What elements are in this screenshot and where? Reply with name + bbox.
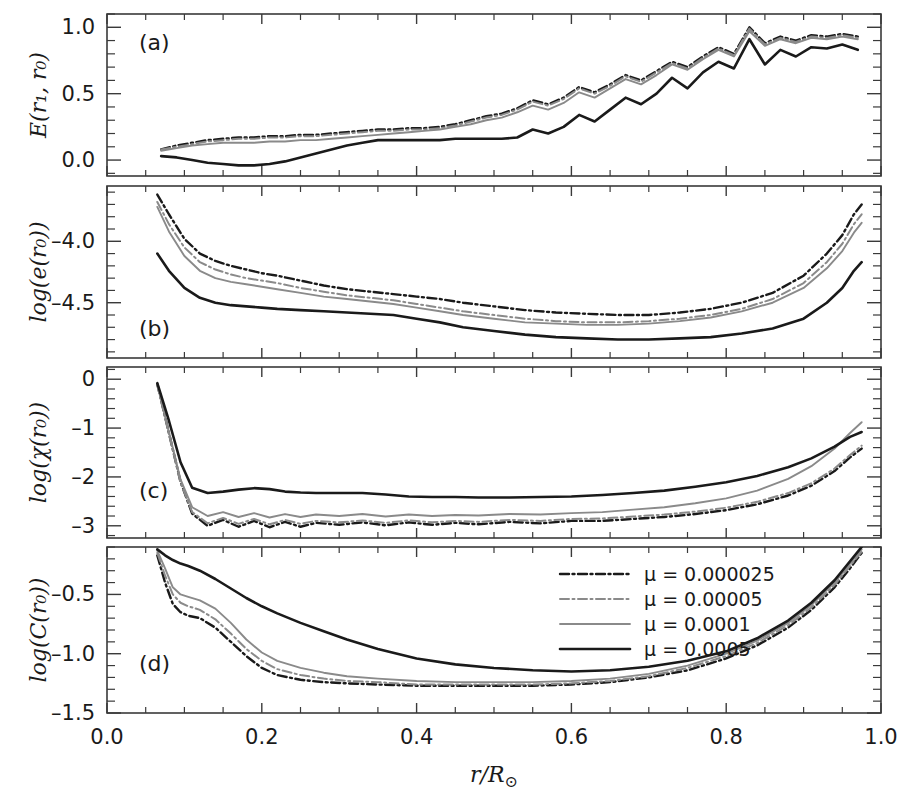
panel-b: –4.0–4.5log(e(r₀))(b) xyxy=(26,186,881,358)
y-tick-label: –0.5 xyxy=(51,582,95,606)
x-tick-label: 0.6 xyxy=(555,725,588,749)
y-tick-label: –2 xyxy=(71,465,95,489)
svg-text:log(e(r₀)): log(e(r₀)) xyxy=(26,221,51,322)
y-tick-label: 0.0 xyxy=(62,148,95,172)
y-tick-label: 0.5 xyxy=(62,82,95,106)
legend-label: μ = 0.0005 xyxy=(644,638,751,660)
series-line xyxy=(157,202,861,322)
y-tick-label: 0 xyxy=(82,367,95,391)
x-tick-label: 0.0 xyxy=(90,725,123,749)
x-tick-label: 1.0 xyxy=(864,725,897,749)
panels-layer: 0.00.51.0E(r₁, r₀)(a)–4.0–4.5log(e(r₀))(… xyxy=(26,14,881,725)
series-line xyxy=(161,39,858,165)
y-axis-title: log(χ(r₀)) xyxy=(26,402,51,503)
x-tick-label: 0.2 xyxy=(245,725,278,749)
panel-tag: (d) xyxy=(139,651,170,676)
y-axis-title: log(e(r₀)) xyxy=(26,221,51,322)
y-tick-label: 1.0 xyxy=(62,15,95,39)
series-line xyxy=(157,385,861,525)
y-tick-label: –4.0 xyxy=(51,229,95,253)
series-line xyxy=(157,383,861,497)
panel-tag: (c) xyxy=(139,478,168,503)
y-tick-label: –4.5 xyxy=(51,291,95,315)
x-tick-label: 0.4 xyxy=(400,725,433,749)
y-tick-label: –1 xyxy=(71,416,95,440)
y-tick-label: –1.0 xyxy=(51,642,95,666)
panel-c: 0–1–2–3log(χ(r₀))(c) xyxy=(26,367,881,538)
series-line xyxy=(157,254,861,340)
svg-text:log(C(r₀)): log(C(r₀)) xyxy=(26,578,51,683)
legend-label: μ = 0.00005 xyxy=(644,588,763,610)
y-axis-title: log(C(r₀)) xyxy=(26,578,51,683)
panel-tag: (b) xyxy=(139,316,170,341)
legend-label: μ = 0.0001 xyxy=(644,613,751,635)
panel-tag: (a) xyxy=(139,30,170,55)
y-ticks xyxy=(107,14,881,173)
series-line xyxy=(161,31,858,151)
series-group xyxy=(157,195,861,340)
multi-panel-line-chart: 0.00.51.0E(r₁, r₀)(a)–4.0–4.5log(e(r₀))(… xyxy=(0,0,909,794)
x-tick-label: 0.8 xyxy=(709,725,742,749)
y-ticks xyxy=(107,369,881,535)
y-tick-label: –1.5 xyxy=(51,701,95,725)
svg-text:log(χ(r₀)): log(χ(r₀)) xyxy=(26,402,51,503)
legend-label: μ = 0.000025 xyxy=(644,563,775,585)
svg-text:E(r₁, r₀): E(r₁, r₀) xyxy=(26,52,51,139)
y-axis-title: E(r₁, r₀) xyxy=(26,52,51,139)
y-tick-label: –3 xyxy=(71,514,95,538)
series-line xyxy=(157,195,861,315)
x-axis-title: r/R⊙ xyxy=(470,762,518,791)
series-line xyxy=(157,384,861,527)
series-group xyxy=(161,27,858,165)
plot-frame xyxy=(107,14,881,176)
shared-x-axis: 0.00.20.40.60.81.0r/R⊙ xyxy=(90,725,897,791)
x-ticks xyxy=(107,14,881,176)
figure-container: 0.00.51.0E(r₁, r₀)(a)–4.0–4.5log(e(r₀))(… xyxy=(0,0,909,794)
panel-a: 0.00.51.0E(r₁, r₀)(a) xyxy=(26,14,881,176)
series-group xyxy=(157,383,861,527)
chart-legend: μ = 0.000025μ = 0.00005μ = 0.0001μ = 0.0… xyxy=(560,563,775,660)
